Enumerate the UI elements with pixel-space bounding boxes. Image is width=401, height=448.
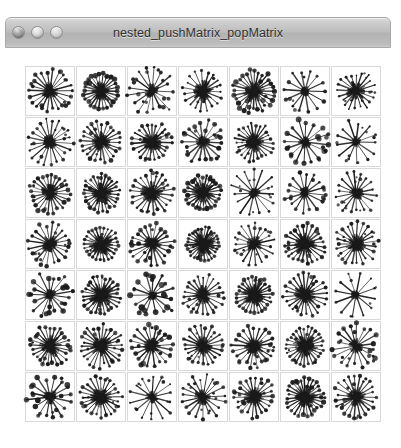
burst-cell	[77, 67, 126, 116]
burst-cell	[332, 373, 381, 422]
burst-cell	[77, 271, 126, 320]
burst-cell	[26, 67, 75, 116]
burst-cell	[77, 118, 126, 167]
burst-cell	[281, 220, 330, 269]
burst-cell	[179, 373, 228, 422]
burst-cell	[179, 118, 228, 167]
burst-cell	[26, 220, 75, 269]
burst-cell	[128, 118, 177, 167]
burst-cell	[332, 219, 381, 268]
burst-cell	[26, 169, 75, 218]
burst-cell	[128, 220, 177, 269]
burst-cell	[179, 271, 228, 320]
burst-cell	[332, 271, 381, 320]
burst-cell	[77, 220, 126, 269]
window-controls	[12, 18, 63, 47]
burst-cell	[230, 67, 279, 116]
burst-cell	[332, 118, 381, 167]
burst-cell	[26, 322, 75, 371]
burst-cell	[127, 271, 176, 320]
window-title-bar[interactable]: nested_pushMatrix_popMatrix	[5, 17, 391, 48]
burst-cell	[281, 169, 330, 218]
burst-cell	[179, 322, 228, 371]
burst-cell	[330, 320, 381, 370]
burst-cell	[230, 167, 279, 217]
burst-cell	[230, 118, 279, 167]
burst-cell	[128, 168, 177, 217]
burst-cell	[281, 373, 330, 422]
burst-cell	[77, 169, 126, 218]
burst-cell	[281, 271, 330, 320]
burst-cell	[26, 271, 75, 320]
burst-cell	[125, 66, 176, 116]
window-title: nested_pushMatrix_popMatrix	[6, 26, 390, 40]
burst-cell	[179, 67, 228, 116]
burst-cell	[281, 116, 332, 166]
burst-cell	[24, 373, 75, 422]
burst-cell	[230, 271, 279, 320]
application-window: nested_pushMatrix_popMatrix	[5, 17, 391, 48]
burst-cell	[77, 373, 126, 422]
burst-cell	[229, 322, 278, 371]
burst-cell	[332, 67, 381, 116]
burst-cell	[281, 67, 330, 116]
minimize-button[interactable]	[31, 26, 44, 39]
burst-cell	[26, 118, 76, 167]
burst-cell	[128, 322, 177, 371]
processing-sketch-canvas	[5, 48, 391, 443]
burst-cell	[281, 322, 330, 371]
burst-grid	[5, 48, 391, 443]
burst-cell	[179, 220, 228, 269]
zoom-button[interactable]	[50, 26, 63, 39]
burst-cell	[230, 220, 279, 269]
burst-cell	[77, 322, 126, 371]
burst-cell	[332, 169, 381, 218]
close-button[interactable]	[12, 26, 25, 39]
burst-cell	[128, 373, 177, 422]
burst-cell	[179, 169, 228, 218]
burst-cell	[230, 373, 279, 422]
